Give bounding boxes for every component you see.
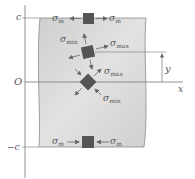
top-right-sigma: σm [109, 13, 121, 24]
label-x: x [178, 84, 183, 94]
label-minus-c: −c [7, 142, 20, 152]
label-y: y [164, 63, 171, 74]
bottom-stress-element [82, 136, 94, 148]
beam-stress-diagram: c O −c x y σm σm σmin σmax σmax σmin σm … [0, 0, 195, 179]
top-stress-element [83, 13, 94, 24]
middle-stress-element [81, 45, 95, 59]
top-left-sigma: σm [52, 13, 64, 24]
label-origin: O [14, 76, 22, 87]
label-c: c [16, 12, 21, 22]
